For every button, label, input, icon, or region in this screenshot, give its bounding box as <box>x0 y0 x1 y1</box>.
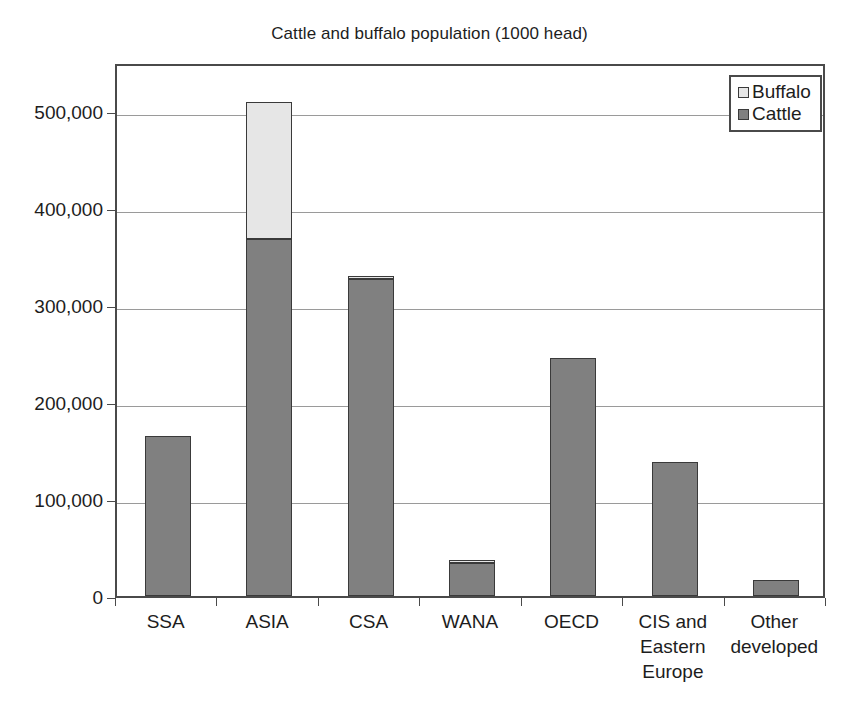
y-tick-label: 100,000 <box>3 490 103 512</box>
legend-item[interactable]: Cattle <box>738 103 811 125</box>
x-tick-mark <box>216 598 217 606</box>
x-tick-label-line: CSA <box>318 609 419 634</box>
bar-segment-buffalo[interactable] <box>246 102 292 239</box>
x-tick-label-line: developed <box>724 634 825 659</box>
y-tick-label: 500,000 <box>3 102 103 124</box>
x-tick-label-line: WANA <box>419 609 520 634</box>
x-tick-label-line: CIS and <box>622 609 723 634</box>
x-tick-label-line: OECD <box>521 609 622 634</box>
bar-segment-buffalo[interactable] <box>348 276 394 279</box>
bar-segment-cattle[interactable] <box>145 436 191 596</box>
x-tick-mark <box>115 598 116 606</box>
x-tick-label-line: Eastern <box>622 634 723 659</box>
x-tick-mark <box>318 598 319 606</box>
bar-group[interactable] <box>550 62 596 596</box>
x-axis: SSAASIACSAWANAOECDCIS andEasternEuropeOt… <box>0 598 859 706</box>
bar-segment-cattle[interactable] <box>652 462 698 596</box>
x-tick-label: SSA <box>115 609 216 634</box>
x-tick-label-line: ASIA <box>216 609 317 634</box>
legend-swatch-icon <box>738 87 749 98</box>
x-tick-mark <box>622 598 623 606</box>
bar-group[interactable] <box>449 62 495 596</box>
legend-item[interactable]: Buffalo <box>738 81 811 103</box>
bar-segment-cattle[interactable] <box>348 279 394 596</box>
x-tick-mark <box>419 598 420 606</box>
bar-group[interactable] <box>652 62 698 596</box>
legend-label: Cattle <box>752 103 802 125</box>
legend-label: Buffalo <box>752 81 811 103</box>
x-tick-label-line: Other <box>724 609 825 634</box>
bar-group[interactable] <box>753 62 799 596</box>
x-tick-label: Otherdeveloped <box>724 609 825 659</box>
x-tick-label-line: SSA <box>115 609 216 634</box>
bar-group[interactable] <box>348 62 394 596</box>
chart-figure: Cattle and buffalo population (1000 head… <box>0 0 859 706</box>
bar-segment-buffalo[interactable] <box>449 560 495 563</box>
legend-swatch-icon <box>738 109 749 120</box>
bar-segment-cattle[interactable] <box>753 580 799 596</box>
bar-segment-cattle[interactable] <box>550 358 596 596</box>
x-tick-label: CSA <box>318 609 419 634</box>
x-tick-mark <box>724 598 725 606</box>
bar-segment-cattle[interactable] <box>449 563 495 596</box>
chart-title: Cattle and buffalo population (1000 head… <box>0 24 859 44</box>
y-tick-label: 400,000 <box>3 199 103 221</box>
bar-group[interactable] <box>145 62 191 596</box>
bar-group[interactable] <box>246 62 292 596</box>
x-tick-label-line: Europe <box>622 659 723 684</box>
x-tick-label: ASIA <box>216 609 317 634</box>
x-tick-label: OECD <box>521 609 622 634</box>
x-tick-label: WANA <box>419 609 520 634</box>
plot-area: BuffaloCattle <box>115 64 825 598</box>
x-tick-mark <box>521 598 522 606</box>
bar-segment-cattle[interactable] <box>246 239 292 596</box>
y-tick-label: 300,000 <box>3 296 103 318</box>
x-tick-mark <box>825 598 826 606</box>
chart-legend: BuffaloCattle <box>729 75 822 132</box>
x-tick-label: CIS andEasternEurope <box>622 609 723 684</box>
y-tick-label: 200,000 <box>3 393 103 415</box>
